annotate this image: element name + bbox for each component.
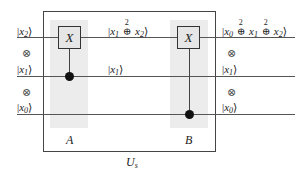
wire-x0 xyxy=(17,114,295,115)
tensor-symbol: ⊗ xyxy=(227,86,236,98)
output-x2-label: |x0 ⊕2 x1 ⊕2 x2⟩ xyxy=(222,25,287,41)
control-line-b xyxy=(189,49,190,114)
intermediate-x2-label: |x1 ⊕2 x2⟩ xyxy=(108,25,148,41)
input-x1-label: |x1⟩ xyxy=(17,63,32,79)
tensor-symbol: ⊗ xyxy=(22,86,31,98)
tensor-symbol: ⊗ xyxy=(22,47,31,59)
output-x1-label: |x1⟩ xyxy=(222,63,237,79)
control-dot-a xyxy=(65,72,74,81)
x-gate-a: X xyxy=(58,26,81,49)
section-label-b: B xyxy=(185,133,192,148)
input-x0-label: |x0⟩ xyxy=(17,101,32,117)
tensor-symbol: ⊗ xyxy=(227,47,236,59)
intermediate-x1-label: |x1⟩ xyxy=(108,63,123,79)
input-x2-label: |x2⟩ xyxy=(17,25,32,41)
control-dot-b xyxy=(185,110,194,119)
frame-label: Us xyxy=(126,155,138,170)
x-gate-b: X xyxy=(177,26,200,49)
wire-x1 xyxy=(17,76,295,77)
output-x0-label: |x0⟩ xyxy=(222,101,237,117)
section-label-a: A xyxy=(66,133,73,148)
